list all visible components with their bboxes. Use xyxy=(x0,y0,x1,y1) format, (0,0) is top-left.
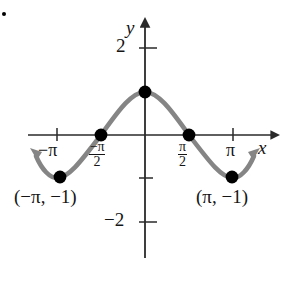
x-tick-label-pi: π xyxy=(226,141,235,159)
corner-bullet-mark xyxy=(2,12,6,16)
fraction-numerator: −π xyxy=(89,140,105,155)
annotation-left-minimum: (−π, −1) xyxy=(14,187,77,206)
point-maximum xyxy=(139,86,152,99)
annotation-right-minimum: (π, −1) xyxy=(196,187,248,206)
point-right-minimum xyxy=(226,171,239,184)
x-tick-label-half-pi: π 2 xyxy=(178,140,187,170)
fraction-denominator: 2 xyxy=(178,155,187,169)
fraction-denominator: 2 xyxy=(89,155,105,169)
x-tick-label-neg-half-pi: −π 2 xyxy=(89,140,105,170)
point-left-minimum xyxy=(54,171,67,184)
y-axis-label: y xyxy=(126,18,134,37)
cosine-graph-figure: y x 2 −2 −π π −π 2 π 2 (−π, −1) (π, −1) xyxy=(0,0,287,286)
y-tick-label-2: 2 xyxy=(116,36,126,55)
x-axis-label: x xyxy=(258,138,266,157)
fraction-numerator: π xyxy=(178,140,187,155)
x-tick-label-neg-pi: −π xyxy=(38,141,57,159)
y-tick-label-neg-2: −2 xyxy=(104,210,124,229)
